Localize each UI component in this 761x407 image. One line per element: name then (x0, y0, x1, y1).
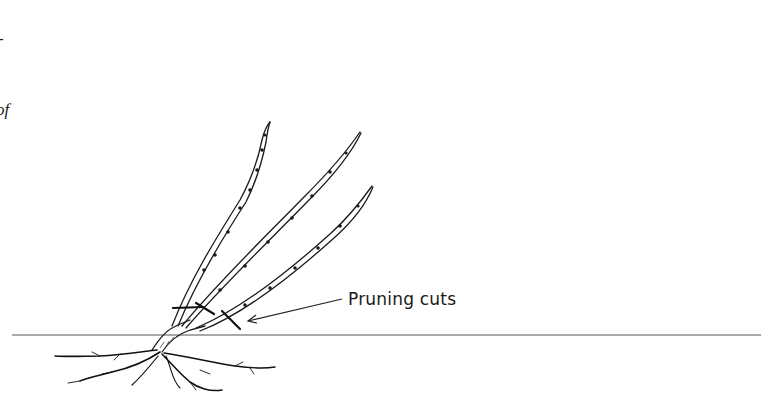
left-cane-1-edge (178, 122, 270, 326)
left-plant (55, 122, 373, 391)
pruning-cuts-label: Pruning cuts (348, 289, 456, 309)
left-leader-line (248, 299, 342, 321)
pruning-cut-mark (196, 303, 214, 314)
pruning-cut-mark (173, 307, 203, 308)
left-cane-1 (172, 122, 270, 326)
left-cane-2 (182, 132, 360, 326)
left-cane-3-edge (200, 187, 373, 331)
pruning-illustration (0, 0, 761, 407)
left-cane-3 (196, 186, 372, 328)
left-roots (55, 350, 275, 391)
